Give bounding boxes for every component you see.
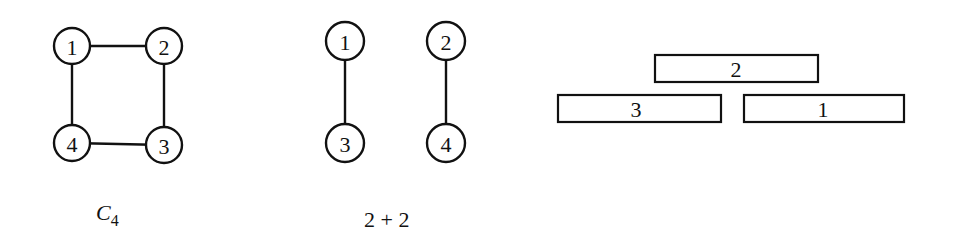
svg-text:4: 4 bbox=[67, 132, 78, 157]
interval-2: 2 bbox=[655, 55, 818, 82]
svg-text:2: 2 bbox=[441, 30, 452, 55]
c4-caption-sub: 4 bbox=[111, 212, 119, 229]
interval-1: 1 bbox=[744, 95, 904, 122]
svg-text:1: 1 bbox=[340, 30, 351, 55]
svg-text:2: 2 bbox=[159, 35, 170, 60]
p-node-4: 4 bbox=[427, 124, 465, 162]
p-node-2: 2 bbox=[427, 22, 465, 60]
svg-text:2: 2 bbox=[731, 57, 742, 82]
interval-3: 3 bbox=[558, 95, 721, 122]
svg-text:4: 4 bbox=[441, 132, 452, 157]
diagram-canvas: 1 2 3 4 1 2 3 4 bbox=[0, 0, 955, 252]
interval-representation: 2 3 1 bbox=[558, 55, 904, 122]
svg-text:1: 1 bbox=[818, 97, 829, 122]
c4-node-3: 3 bbox=[146, 127, 182, 163]
svg-text:3: 3 bbox=[340, 132, 351, 157]
c4-caption: C4 bbox=[96, 200, 119, 230]
c4-node-1: 1 bbox=[54, 28, 90, 64]
c4-graph: 1 2 3 4 bbox=[54, 28, 182, 163]
p-node-3: 3 bbox=[326, 124, 364, 162]
svg-text:1: 1 bbox=[67, 35, 78, 60]
two-plus-two-caption: 2 + 2 bbox=[364, 207, 409, 233]
c4-caption-main: C bbox=[96, 200, 111, 225]
c4-node-2: 2 bbox=[146, 28, 182, 64]
svg-text:3: 3 bbox=[631, 97, 642, 122]
svg-text:3: 3 bbox=[159, 134, 170, 159]
two-plus-two-graph: 1 2 3 4 bbox=[326, 22, 465, 162]
p-node-1: 1 bbox=[326, 22, 364, 60]
c4-node-4: 4 bbox=[54, 125, 90, 161]
